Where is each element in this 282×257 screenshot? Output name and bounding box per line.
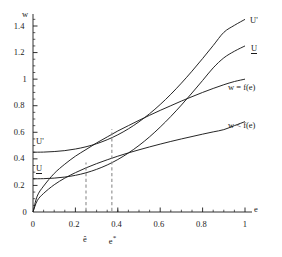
y-tick-2: 0.4: [14, 154, 25, 163]
x-tick-2: 0.4: [111, 220, 122, 229]
x-tick-5: 1: [243, 220, 247, 229]
curve-label-left-u-bar: U: [36, 164, 42, 174]
x-tick-1: 0.2: [69, 220, 80, 229]
curve-label-right-u-prime: U': [250, 16, 258, 25]
marker-label-e-star: e*: [109, 235, 116, 245]
x-tick-4: 0.8: [196, 220, 207, 229]
y-tick-7: 1.4: [14, 22, 25, 31]
y-tick-0: 0: [23, 208, 27, 217]
y-tick-6: 1.2: [14, 48, 25, 57]
y-tick-3: 0.6: [14, 128, 25, 137]
curve-2: [33, 46, 245, 179]
x-tick-3: 0.6: [154, 220, 165, 229]
curve-label-right-w-equals-fe: w = f(e): [228, 83, 255, 92]
x-tick-0: 0: [31, 220, 35, 229]
x-axis-label: e: [254, 205, 258, 214]
y-axis-label: w: [22, 10, 28, 19]
curve-label-right-w-less-fe: w < f(e): [228, 121, 255, 130]
curve-4: [33, 122, 245, 212]
curve-label-left-u-prime: U': [36, 137, 44, 146]
y-tick-4: 0.8: [14, 101, 25, 110]
y-tick-1: 0.2: [14, 181, 25, 190]
curve-label-right-u-bar: U: [251, 44, 257, 54]
y-tick-5: 1: [23, 75, 27, 84]
chart-figure: w e 00.20.40.60.811.21.4 00.20.40.60.81 …: [0, 0, 282, 257]
marker-label-e-hat: ê: [83, 235, 87, 244]
